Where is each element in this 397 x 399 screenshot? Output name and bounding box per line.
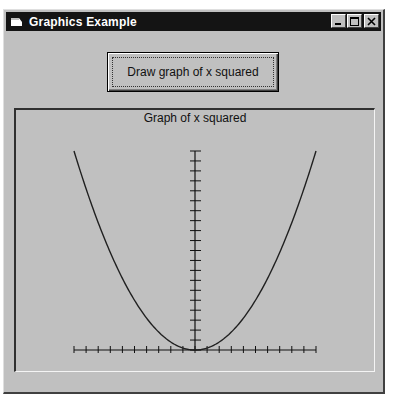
app-window: Graphics Example Draw graph of x squared… (3, 9, 385, 394)
graph-canvas (4, 10, 386, 395)
